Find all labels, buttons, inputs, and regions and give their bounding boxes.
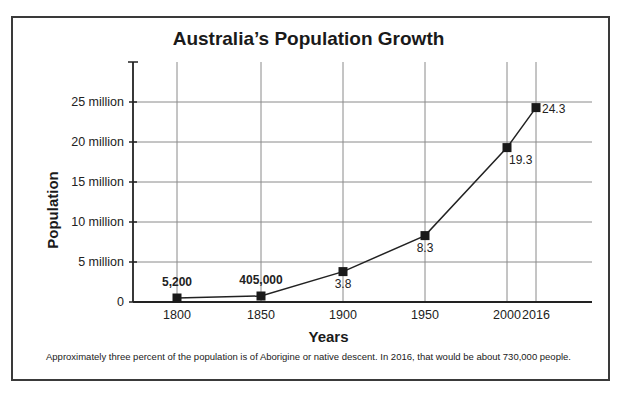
- y-tick-label: 25 million: [71, 95, 124, 109]
- data-label: 19.3: [509, 153, 533, 167]
- data-label: 8.3: [417, 241, 434, 255]
- x-tick-label: 2016: [522, 308, 550, 322]
- data-marker: [503, 143, 512, 152]
- data-label: 3.8: [335, 277, 352, 291]
- data-marker: [532, 103, 541, 112]
- x-tick-label: 1900: [329, 308, 357, 322]
- data-marker: [257, 292, 266, 301]
- x-tick-label: 1850: [247, 308, 275, 322]
- data-label: 24.3: [542, 102, 566, 116]
- data-label: 405,000: [239, 273, 283, 287]
- x-tick-label: 1950: [411, 308, 439, 322]
- data-marker: [173, 294, 182, 303]
- y-tick-label: 5 million: [78, 255, 124, 269]
- plot-area: 05 million10 million15 million20 million…: [0, 0, 617, 394]
- data-label: 5,200: [162, 275, 192, 289]
- x-tick-label: 1800: [163, 308, 191, 322]
- data-marker: [421, 231, 430, 240]
- y-tick-label: 10 million: [71, 215, 124, 229]
- data-marker: [339, 267, 348, 276]
- x-tick-label: 2000: [493, 308, 521, 322]
- y-tick-label: 0: [117, 295, 124, 309]
- y-tick-label: 15 million: [71, 175, 124, 189]
- data-line: [177, 108, 536, 298]
- y-tick-label: 20 million: [71, 135, 124, 149]
